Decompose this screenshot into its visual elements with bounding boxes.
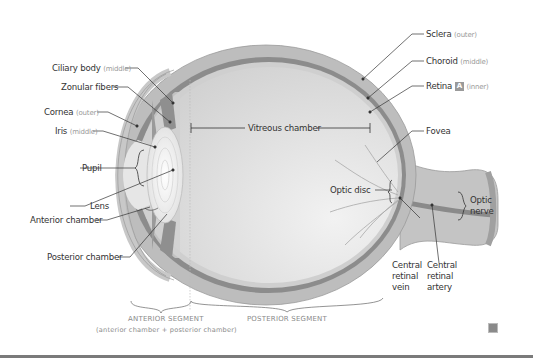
label-text: Iris bbox=[55, 126, 67, 136]
label-zonular-fibers: Zonular fibers bbox=[61, 82, 118, 92]
label-text: Pupil bbox=[82, 163, 102, 173]
label-optic-disc: Optic disc bbox=[330, 185, 370, 195]
label-text: Ciliary body bbox=[52, 63, 101, 73]
label-text: Choroid bbox=[426, 56, 458, 66]
label-text: Anterior chamber bbox=[30, 215, 102, 225]
label-pupil: Pupil bbox=[82, 163, 102, 173]
audio-badge-icon[interactable]: A bbox=[455, 82, 464, 91]
label-text: Vitreous chamber bbox=[248, 123, 321, 133]
label-text: Posterior chamber bbox=[47, 252, 122, 262]
label-fovea: Fovea bbox=[426, 126, 451, 136]
label-posterior-chamber: Posterior chamber bbox=[47, 252, 122, 262]
label-text: Optic disc bbox=[330, 185, 370, 195]
eye-illustration bbox=[0, 0, 533, 358]
posterior-segment-label: POSTERIOR SEGMENT bbox=[245, 315, 329, 323]
label-qualifier: (inner) bbox=[466, 83, 488, 91]
label-text: Optic nerve bbox=[470, 195, 494, 216]
label-iris: Iris (middle) bbox=[55, 126, 97, 137]
label-text: Cornea bbox=[44, 107, 73, 117]
label-central-retinal-artery: Central retinal artery bbox=[427, 260, 461, 293]
label-text: Retina bbox=[426, 81, 452, 91]
expand-icon[interactable] bbox=[488, 323, 498, 333]
label-qualifier: (middle) bbox=[460, 58, 488, 66]
label-retina: Retina A (inner) bbox=[426, 81, 489, 92]
label-qualifier: (middle) bbox=[70, 128, 98, 136]
label-text: Lens bbox=[90, 201, 109, 211]
label-ciliary-body: Ciliary body (middle) bbox=[52, 63, 131, 74]
label-text: Fovea bbox=[426, 126, 451, 136]
eye-anatomy-diagram: Ciliary body (middle) Zonular fibers Cor… bbox=[0, 0, 533, 358]
label-optic-nerve: Optic nerve bbox=[470, 195, 500, 217]
lens-shape bbox=[147, 127, 183, 223]
label-text: Sclera bbox=[426, 29, 451, 39]
label-anterior-chamber: Anterior chamber bbox=[30, 215, 102, 225]
anterior-segment-note: (anterior chamber + posterior chamber) bbox=[96, 326, 226, 334]
label-text: Central retinal vein bbox=[392, 260, 422, 292]
label-vitreous-chamber: Vitreous chamber bbox=[248, 123, 321, 133]
label-cornea: Cornea (outer) bbox=[44, 107, 99, 118]
label-qualifier: (middle) bbox=[103, 65, 131, 73]
label-central-retinal-vein: Central retinal vein bbox=[392, 260, 426, 293]
label-text: Zonular fibers bbox=[61, 82, 118, 92]
label-lens: Lens bbox=[90, 201, 109, 211]
label-choroid: Choroid (middle) bbox=[426, 56, 488, 67]
anterior-segment-label: ANTERIOR SEGMENT bbox=[128, 315, 194, 323]
label-qualifier: (outer) bbox=[76, 109, 99, 117]
label-qualifier: (outer) bbox=[454, 31, 477, 39]
label-text: Central retinal artery bbox=[427, 260, 457, 292]
label-sclera: Sclera (outer) bbox=[426, 29, 477, 40]
